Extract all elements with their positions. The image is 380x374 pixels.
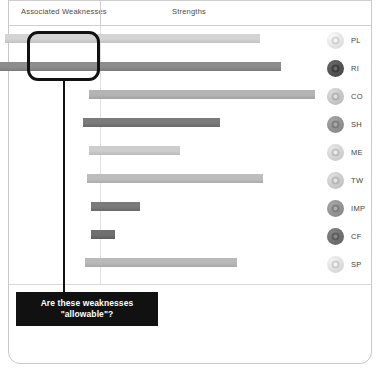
legend-label: IMP — [351, 204, 365, 213]
legend-label: CO — [351, 92, 363, 101]
callout-text: Are these weaknesses "allowable"? — [41, 298, 134, 321]
legend-label: SH — [351, 120, 362, 129]
legend-item-ri[interactable]: RI — [327, 54, 379, 82]
bar-row — [9, 54, 371, 82]
column-header-strengths: Strengths — [172, 7, 206, 16]
header-column-divider — [100, 1, 101, 26]
globe-icon — [327, 228, 344, 245]
note-icon — [327, 60, 344, 77]
legend-item-me[interactable]: ME — [327, 138, 379, 166]
bar-row — [9, 26, 371, 54]
bar-cf — [91, 230, 116, 239]
bar-pl — [5, 34, 260, 43]
legend-item-sh[interactable]: SH — [327, 110, 379, 138]
legend-column: PLRICOSHMETWIMPCFSP — [327, 26, 379, 284]
bar-ri — [0, 62, 281, 71]
person-icon — [327, 88, 344, 105]
legend-label: TW — [351, 176, 363, 185]
bar-tw — [87, 174, 264, 183]
legend-label: ME — [351, 148, 363, 157]
legend-label: CF — [351, 232, 362, 241]
sphere-icon — [327, 116, 344, 133]
puzzle-icon — [327, 200, 344, 217]
legend-item-cf[interactable]: CF — [327, 222, 379, 250]
spiral-icon — [327, 256, 344, 273]
legend-item-sp[interactable]: SP — [327, 250, 379, 278]
people-icon — [327, 172, 344, 189]
legend-label: PL — [351, 36, 361, 45]
legend-item-co[interactable]: CO — [327, 82, 379, 110]
legend-item-imp[interactable]: IMP — [327, 194, 379, 222]
legend-item-tw[interactable]: TW — [327, 166, 379, 194]
bar-imp — [91, 202, 140, 211]
legend-label: RI — [351, 64, 359, 73]
column-header-row: Associated Weaknesses Strengths — [9, 0, 371, 26]
bar-sh — [83, 118, 220, 127]
callout-connector-line — [63, 79, 65, 292]
legend-label: SP — [351, 260, 362, 269]
legend-item-pl[interactable]: PL — [327, 26, 379, 54]
bar-me — [89, 146, 180, 155]
target-icon — [327, 144, 344, 161]
callout-box: Are these weaknesses "allowable"? — [16, 292, 158, 326]
bar-sp — [85, 258, 237, 267]
column-header-associated-weaknesses: Associated Weaknesses — [21, 7, 107, 16]
gear-icon — [327, 32, 344, 49]
bar-co — [89, 90, 315, 99]
